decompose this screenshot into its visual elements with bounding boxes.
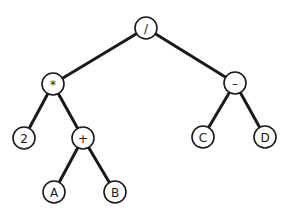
tree-nodes: /*–2+CDAB <box>13 17 276 203</box>
edge-root-mul <box>53 28 146 84</box>
tree-node-root: / <box>135 17 157 39</box>
tree-node-add: + <box>72 127 94 149</box>
tree-node-c: C <box>192 126 214 148</box>
tree-node-mul: * <box>42 73 64 95</box>
tree-node-sub: – <box>224 72 246 94</box>
expression-tree-diagram: /*–2+CDAB <box>0 0 289 216</box>
edge-root-sub <box>146 28 235 83</box>
node-label: C <box>199 131 207 145</box>
tree-edges <box>24 28 265 192</box>
node-label: A <box>50 186 59 200</box>
node-label: 2 <box>20 132 28 146</box>
node-label: B <box>111 186 119 200</box>
node-label: D <box>260 131 269 145</box>
tree-node-a: A <box>43 181 65 203</box>
tree-node-two: 2 <box>13 127 35 149</box>
tree-node-b: B <box>104 181 126 203</box>
node-label: + <box>78 132 88 146</box>
node-label: * <box>50 78 56 92</box>
tree-node-d: D <box>254 126 276 148</box>
node-label: – <box>232 77 238 91</box>
